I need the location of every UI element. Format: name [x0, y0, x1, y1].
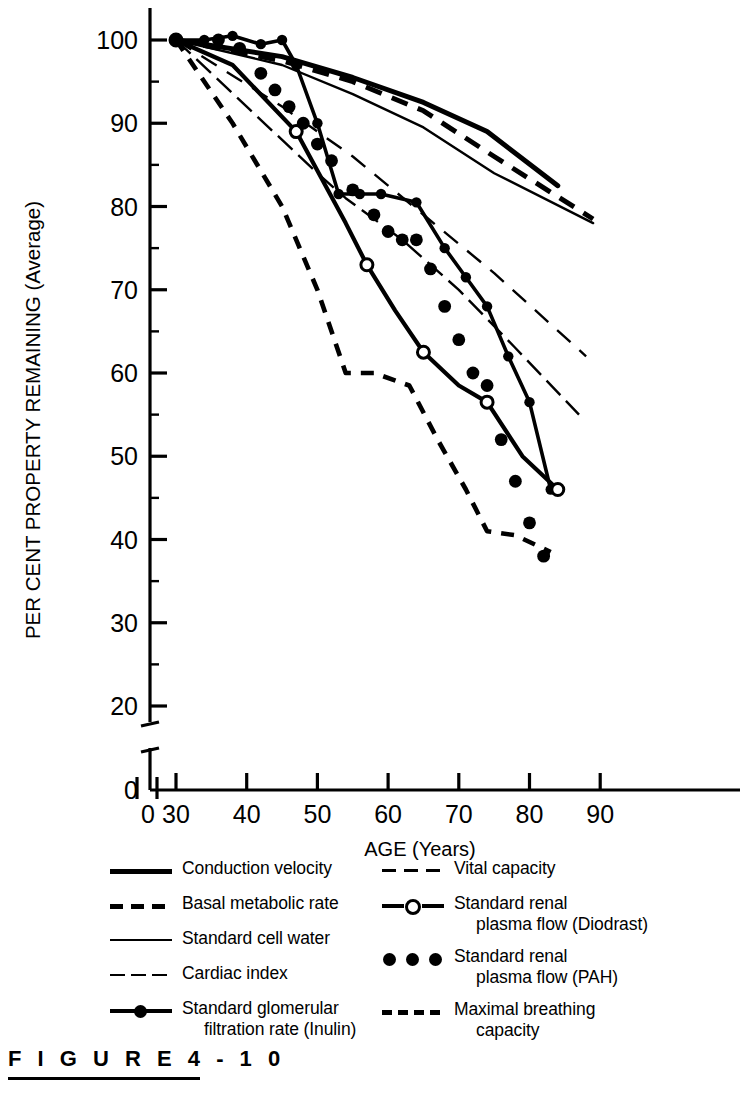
data-point: [368, 208, 381, 221]
figure-caption-text: F I G U R E 4 - 1 0: [8, 1046, 308, 1072]
data-point: [277, 35, 287, 45]
y-tick-label-100: 100: [96, 26, 138, 54]
legend-swatch-gfr-inulin-icon: [110, 1000, 172, 1020]
data-point: [481, 396, 493, 408]
legend-item-vital-capacity[interactable]: Vital capacity: [382, 858, 742, 882]
data-point: [509, 475, 522, 488]
legend-item-gfr-inulin[interactable]: Standard glomerularfiltration rate (Inul…: [110, 998, 390, 1040]
legend-column-right: Vital capacityStandard renalplasma flow …: [382, 858, 742, 1052]
data-point: [361, 259, 373, 271]
legend-swatch-maximal-breathing-capacity-icon: [382, 1001, 444, 1021]
series-7: [170, 34, 550, 563]
legend-label-cardiac-index: Cardiac index: [182, 963, 288, 984]
series-line: [176, 40, 558, 186]
legend-item-basal-metabolic-rate[interactable]: Basal metabolic rate: [110, 893, 390, 917]
series-line: [176, 40, 579, 415]
legend-label-maximal-breathing-capacity-line2: capacity: [454, 1020, 595, 1041]
legend-item-maximal-breathing-capacity[interactable]: Maximal breathingcapacity: [382, 999, 742, 1041]
legend-label-basal-metabolic-rate: Basal metabolic rate: [182, 893, 339, 914]
data-point: [325, 154, 338, 167]
legend-item-conduction-velocity[interactable]: Conduction velocity: [110, 858, 390, 882]
data-point: [291, 60, 301, 70]
legend-label-srpf-diodrast-line2: plasma flow (Diodrast): [454, 914, 648, 935]
legend-item-standard-cell-water[interactable]: Standard cell water: [110, 928, 390, 952]
chart-legend: Conduction velocityBasal metabolic rateS…: [110, 858, 740, 1038]
data-point: [482, 301, 492, 311]
data-point: [524, 397, 534, 407]
legend-swatch-srpf-pah-icon: [382, 948, 444, 968]
y-tick-label-60: 60: [110, 359, 138, 387]
data-point: [503, 351, 513, 361]
legend-swatch-conduction-velocity-icon: [110, 860, 172, 880]
data-point: [439, 243, 449, 253]
series-0: [176, 40, 558, 186]
data-point: [481, 379, 494, 392]
data-point: [254, 67, 267, 80]
legend-item-srpf-pah[interactable]: Standard renalplasma flow (PAH): [382, 946, 742, 988]
data-point: [199, 35, 209, 45]
legend-label-maximal-breathing-capacity: Maximal breathingcapacity: [454, 999, 595, 1041]
axis-title-layer: AGE (Years)PER CENT PROPERTY REMAINING (…: [21, 201, 476, 860]
legend-swatch-srpf-diodrast-icon: [382, 895, 444, 915]
data-point: [376, 189, 386, 199]
figure-caption-rule: [8, 1077, 200, 1080]
legend-label-srpf-diodrast: Standard renalplasma flow (Diodrast): [454, 893, 648, 935]
data-point: [411, 197, 421, 207]
x-tick-label-30: 30: [162, 800, 190, 828]
data-point: [467, 367, 480, 380]
series-layer: [170, 31, 593, 563]
x-axis-title: AGE (Years): [364, 838, 476, 860]
data-point: [212, 34, 225, 47]
data-point: [552, 484, 564, 496]
data-point: [333, 189, 343, 199]
figure-caption: F I G U R E 4 - 1 0: [8, 1046, 308, 1080]
data-point: [382, 225, 395, 238]
y-axis-break-upper: [141, 722, 159, 726]
series-3: [176, 40, 579, 415]
chart-plot: 10090807060504030200030405060708090 AGE …: [0, 0, 745, 860]
axis-layer: [137, 8, 740, 799]
y-tick-label-80: 80: [110, 193, 138, 221]
figure-root: 10090807060504030200030405060708090 AGE …: [0, 0, 745, 1104]
data-point: [227, 31, 237, 41]
y-tick-label-20: 20: [110, 692, 138, 720]
data-point: [495, 433, 508, 446]
y-tick-label-90: 90: [110, 109, 138, 137]
legend-swatch-cardiac-index-icon: [110, 965, 172, 985]
data-point: [283, 100, 296, 113]
legend-label-gfr-inulin: Standard glomerularfiltration rate (Inul…: [182, 998, 356, 1040]
data-point: [396, 233, 409, 246]
x-tick-label-50: 50: [303, 800, 331, 828]
x-tick-label-80: 80: [516, 800, 544, 828]
data-point: [424, 263, 437, 276]
legend-swatch-basal-metabolic-rate-icon: [110, 895, 172, 915]
data-point: [269, 84, 282, 97]
data-point: [297, 117, 310, 130]
y-tick-label-50: 50: [110, 442, 138, 470]
y-tick-label-30: 30: [110, 609, 138, 637]
x-tick-label-60: 60: [374, 800, 402, 828]
x-tick-label-40: 40: [233, 800, 261, 828]
series-6: [170, 34, 564, 496]
data-point: [523, 516, 536, 529]
legend-label-standard-cell-water: Standard cell water: [182, 928, 330, 949]
data-point: [417, 346, 429, 358]
legend-item-srpf-diodrast[interactable]: Standard renalplasma flow (Diodrast): [382, 893, 742, 935]
legend-item-cardiac-index[interactable]: Cardiac index: [110, 963, 390, 987]
legend-swatch-standard-cell-water-icon: [110, 930, 172, 950]
data-point: [346, 183, 359, 196]
legend-label-vital-capacity: Vital capacity: [454, 858, 555, 879]
data-point: [461, 272, 471, 282]
x-tick-label-0: 0: [141, 800, 155, 828]
y-tick-label-0: 0: [124, 776, 138, 804]
data-point: [312, 118, 322, 128]
y-tick-label-40: 40: [110, 526, 138, 554]
legend-label-srpf-pah: Standard renalplasma flow (PAH): [454, 946, 618, 988]
legend-column-left: Conduction velocityBasal metabolic rateS…: [110, 858, 390, 1051]
data-point: [410, 233, 423, 246]
legend-swatch-vital-capacity-icon: [382, 860, 444, 880]
y-tick-label-70: 70: [110, 276, 138, 304]
x-tick-label-90: 90: [586, 800, 614, 828]
legend-label-gfr-inulin-line2: filtration rate (Inulin): [182, 1019, 356, 1040]
data-point: [438, 300, 451, 313]
